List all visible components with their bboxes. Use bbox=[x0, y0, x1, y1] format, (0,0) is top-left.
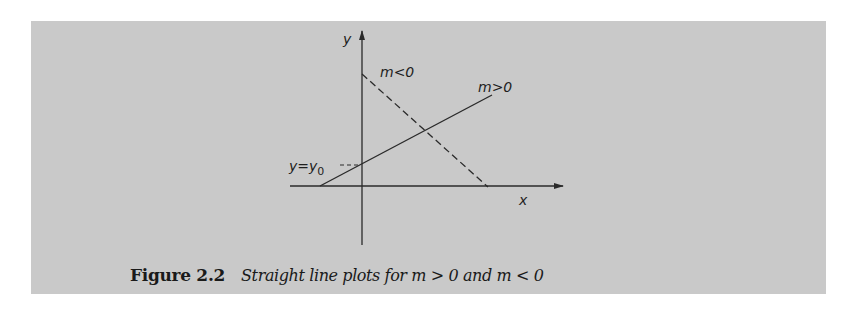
intercept-subscript: 0 bbox=[317, 165, 324, 178]
figure-number: Figure 2.2 bbox=[130, 265, 225, 285]
positive-slope-label: m>0 bbox=[478, 79, 512, 95]
intercept-prefix: y= bbox=[288, 158, 309, 174]
caption-text: Straight line plots for m > 0 and m < 0 bbox=[241, 266, 543, 285]
intercept-label: y=y0 bbox=[288, 158, 324, 178]
positive-slope-line bbox=[320, 95, 492, 186]
figure-caption: Figure 2.2Straight line plots for m > 0 … bbox=[130, 264, 543, 287]
negative-slope-label: m<0 bbox=[380, 64, 414, 80]
y-axis-label: y bbox=[342, 31, 352, 47]
x-axis-label: x bbox=[518, 192, 528, 208]
